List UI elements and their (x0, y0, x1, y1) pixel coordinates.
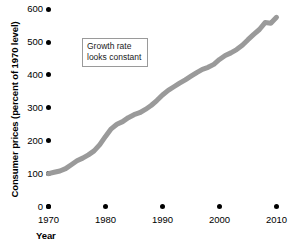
annotation-line-2: looks constant (87, 52, 143, 63)
chart-container: Consumer prices (percent of 1970 level) … (0, 0, 292, 249)
annotation-growth-rate: Growth rate looks constant (82, 38, 148, 67)
annotation-line-1: Growth rate (87, 41, 143, 52)
